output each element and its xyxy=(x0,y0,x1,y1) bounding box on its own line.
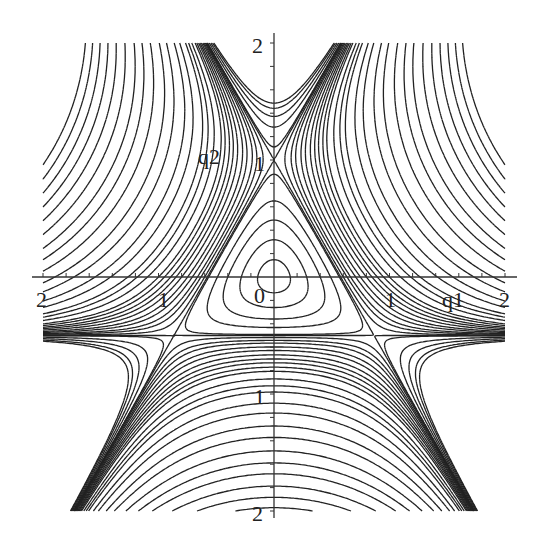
y-tick-label-pos2: 2 xyxy=(252,33,263,58)
contour-plot: 2 1 0 1 2 2 1 1 2 q1 q2 xyxy=(0,0,540,555)
x-tick-label-neg2: 2 xyxy=(36,287,47,312)
x-tick-label-pos1: 1 xyxy=(385,287,396,312)
y-tick-label-neg1: 1 xyxy=(254,384,265,409)
y-tick-label-pos1: 1 xyxy=(254,151,265,176)
origin-label: 0 xyxy=(254,283,265,308)
x-tick-label-neg1: 1 xyxy=(158,287,169,312)
x-tick-label-pos2: 2 xyxy=(499,287,510,312)
y-axis-label: q2 xyxy=(198,144,220,169)
x-axis-label: q1 xyxy=(442,287,464,312)
y-tick-label-neg2: 2 xyxy=(252,501,263,526)
